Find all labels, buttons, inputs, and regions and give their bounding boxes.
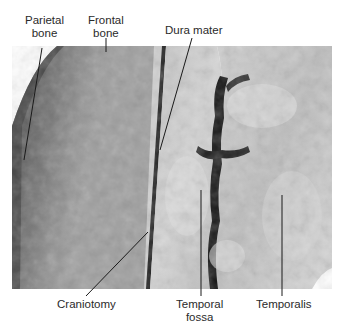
label-temporalis-line1: Temporalis bbox=[256, 298, 312, 311]
label-temporal-fossa: Temporal fossa bbox=[176, 298, 223, 324]
label-craniotomy: Craniotomy bbox=[57, 298, 116, 311]
label-parietal-bone: Parietal bone bbox=[25, 14, 64, 40]
label-temporal-fossa-line2: fossa bbox=[176, 311, 223, 324]
label-frontal-bone-line2: bone bbox=[88, 27, 124, 40]
label-parietal-bone-line2: bone bbox=[25, 27, 64, 40]
label-frontal-bone-line1: Frontal bbox=[88, 14, 124, 27]
craniotomy-photo bbox=[12, 46, 332, 289]
label-craniotomy-line1: Craniotomy bbox=[57, 298, 116, 311]
label-temporalis: Temporalis bbox=[256, 298, 312, 311]
label-frontal-bone: Frontal bone bbox=[88, 14, 124, 40]
label-temporal-fossa-line1: Temporal bbox=[176, 298, 223, 311]
label-dura-mater-line1: Dura mater bbox=[165, 24, 223, 37]
anatomy-figure: Parietal bone Frontal bone Dura mater Cr… bbox=[0, 0, 342, 327]
label-parietal-bone-line1: Parietal bbox=[25, 14, 64, 27]
label-dura-mater: Dura mater bbox=[165, 24, 223, 37]
